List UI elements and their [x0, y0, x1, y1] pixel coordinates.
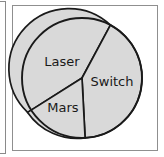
- pie-chart-canvas: Laser Switch Mars: [0, 0, 164, 157]
- pie-label-laser: Laser: [44, 54, 80, 69]
- pie-label-mars: Mars: [47, 100, 79, 115]
- pie-chart-figure: Laser Switch Mars: [0, 0, 164, 157]
- pie-label-switch: Switch: [91, 74, 134, 89]
